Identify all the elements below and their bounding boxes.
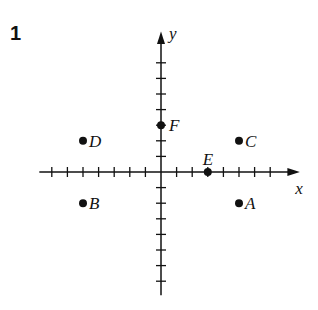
point-label-a: A xyxy=(244,194,256,213)
point-e xyxy=(204,168,212,176)
point-b xyxy=(79,199,87,207)
x-axis-arrow-icon xyxy=(287,168,299,176)
point-label-b: B xyxy=(89,194,100,213)
point-d xyxy=(79,137,87,145)
coordinate-plane: xyABCDEF xyxy=(0,0,318,310)
point-label-c: C xyxy=(245,132,257,151)
y-axis-label: y xyxy=(167,24,177,43)
x-axis-label: x xyxy=(294,179,303,198)
point-label-d: D xyxy=(88,132,102,151)
point-label-e: E xyxy=(202,150,214,169)
point-a xyxy=(235,199,243,207)
point-label-f: F xyxy=(168,116,180,135)
y-axis-arrow-icon xyxy=(157,32,165,44)
point-f xyxy=(157,121,165,129)
point-c xyxy=(235,137,243,145)
